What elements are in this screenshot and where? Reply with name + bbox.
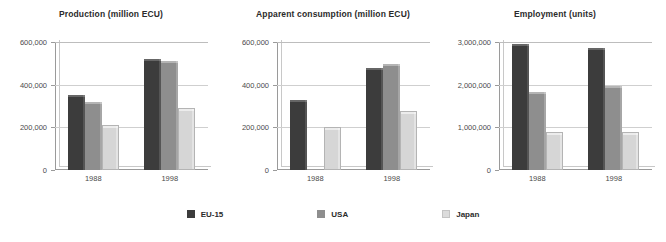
bar-groups [499,42,652,170]
x-axis-label: 1998 [576,174,653,188]
y-axis-tick-mark [51,170,55,171]
y-axis-tick-label: 200,000 [242,123,269,132]
bar-usa-1998[interactable] [161,61,178,170]
y-axis-ticks: 01,000,0002,000,0003,000,000 [444,0,496,200]
plot-area [499,42,652,170]
bar-group [354,42,431,170]
bar-slot [161,42,178,170]
bar-eu-15-1988[interactable] [512,44,529,170]
bar-slot [588,42,605,170]
y-axis-tick-label: 0 [487,166,491,175]
bar-eu-15-1988[interactable] [68,95,85,170]
bar-group [576,42,653,170]
y-axis-tick-label: 400,000 [20,80,47,89]
x-axis-label: 1988 [277,174,354,188]
bar-japan-1988[interactable] [546,132,563,170]
y-axis-tick-label: 200,000 [20,123,47,132]
chart-panel-production: Production (million ECU) 0200,000400,000… [0,0,222,200]
x-axis-labels: 19881998 [55,174,208,188]
bar-usa-1998[interactable] [383,64,400,170]
bar-slot [102,42,119,170]
x-axis-label: 1998 [354,174,431,188]
bar-slot [546,42,563,170]
y-axis-ticks: 0200,000400,000600,000 [222,0,274,200]
legend-swatch-icon [187,210,195,218]
x-axis-labels: 19881998 [277,174,430,188]
bar-japan-1998[interactable] [622,132,639,170]
y-axis-tick-label: 0 [43,166,47,175]
bar-usa-1998[interactable] [605,86,622,170]
bar-usa-1988[interactable] [529,92,546,170]
legend-label: USA [331,210,348,219]
x-axis-labels: 19881998 [499,174,652,188]
y-axis-tick-label: 600,000 [20,38,47,47]
bar-slot [529,42,546,170]
bar-groups [277,42,430,170]
legend-item-eu-15[interactable]: EU-15 [187,210,224,219]
y-axis-tick-label: 400,000 [242,80,269,89]
y-axis-tick-mark [495,170,499,171]
bar-slot [366,42,383,170]
bar-slot [400,42,417,170]
bar-slot [68,42,85,170]
bar-slot [178,42,195,170]
legend-swatch-icon [442,210,450,218]
bar-japan-1998[interactable] [400,111,417,170]
bar-japan-1998[interactable] [178,108,195,170]
bar-eu-15-1998[interactable] [588,48,605,170]
x-axis-label: 1988 [55,174,132,188]
x-axis-label: 1998 [132,174,209,188]
bar-group [499,42,576,170]
chart-panel-employment: Employment (units) 01,000,0002,000,0003,… [444,0,666,200]
legend-label: Japan [456,210,479,219]
bar-slot [622,42,639,170]
legend-swatch-icon [317,210,325,218]
chart-legend: EU-15USAJapan [0,204,666,224]
bar-group [55,42,132,170]
y-axis-tick-label: 600,000 [242,38,269,47]
bar-eu-15-1998[interactable] [144,59,161,170]
y-axis-ticks: 0200,000400,000600,000 [0,0,52,200]
chart-panels: Production (million ECU) 0200,000400,000… [0,0,666,200]
y-axis-tick-label: 0 [265,166,269,175]
plot-area [55,42,208,170]
plot-area [277,42,430,170]
bar-slot [383,42,400,170]
bar-slot [290,42,307,170]
legend-item-usa[interactable]: USA [317,210,348,219]
bar-japan-1988[interactable] [324,127,341,170]
bar-group [132,42,209,170]
bar-slot [85,42,102,170]
bar-slot [144,42,161,170]
y-axis-tick-label: 2,000,000 [458,80,491,89]
chart-figure: Production (million ECU) 0200,000400,000… [0,0,666,242]
bar-usa-1988[interactable] [85,102,102,170]
legend-item-japan[interactable]: Japan [442,210,479,219]
x-axis-label: 1988 [499,174,576,188]
chart-panel-apparent-consumption: Apparent consumption (million ECU) 0200,… [222,0,444,200]
y-axis-tick-label: 3,000,000 [458,38,491,47]
bar-eu-15-1998[interactable] [366,68,383,170]
bar-group [277,42,354,170]
y-axis-tick-mark [273,170,277,171]
bar-eu-15-1988[interactable] [290,100,307,170]
bar-slot [512,42,529,170]
legend-label: EU-15 [201,210,224,219]
bar-japan-1988[interactable] [102,125,119,170]
bar-slot [324,42,341,170]
bar-slot [605,42,622,170]
y-axis-tick-label: 1,000,000 [458,123,491,132]
bar-groups [55,42,208,170]
bar-slot [307,42,324,170]
